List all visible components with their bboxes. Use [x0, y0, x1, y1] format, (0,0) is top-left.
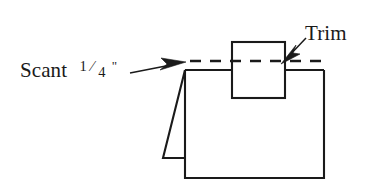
scant-unit-mark: " [112, 58, 117, 73]
trim-block [232, 42, 285, 98]
scant-label-word: Scant [20, 58, 67, 82]
diagram-canvas: Scant 1 ⁄ 4 " Trim [0, 0, 378, 185]
scant-arrow-icon [160, 58, 186, 70]
scant-fraction-numerator: 1 [80, 58, 87, 74]
main-panel [185, 70, 324, 178]
scant-label: Scant 1 ⁄ 4 " [20, 52, 117, 82]
folded-flap [163, 70, 185, 158]
scant-fraction-denominator: 4 [98, 64, 106, 80]
scant-fraction-slash: ⁄ [88, 58, 96, 74]
trim-label: Trim [305, 21, 347, 45]
figure-container: Scant 1 ⁄ 4 " Trim [0, 0, 378, 185]
